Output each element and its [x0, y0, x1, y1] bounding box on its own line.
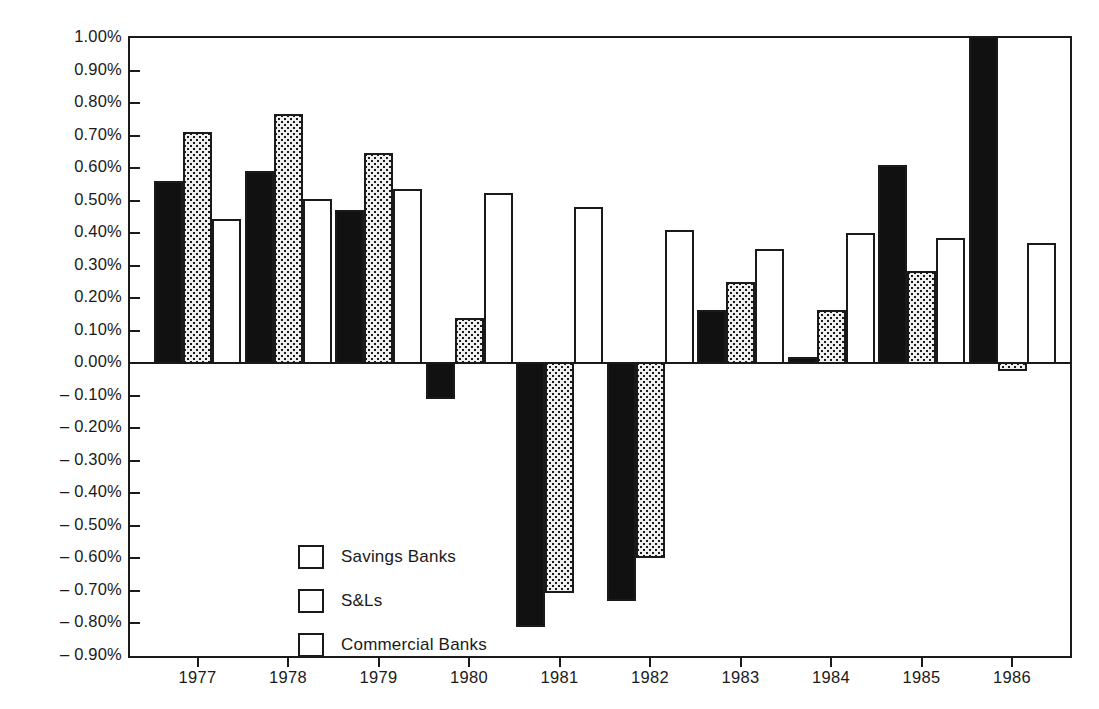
y-axis-tick-label: – 0.70% [0, 579, 122, 598]
y-axis-tick-mark [129, 297, 140, 299]
bar-1977-commercial-banks [212, 219, 241, 365]
x-axis-tick-label: 1978 [269, 668, 307, 687]
bar-1983-commercial-banks [755, 249, 784, 364]
y-axis-tick-label: 0.90% [0, 59, 122, 78]
x-axis-tick-mark [287, 656, 289, 667]
legend: Savings BanksS&LsCommercial Banks [298, 535, 487, 667]
y-axis-tick-mark [129, 102, 140, 104]
bar-1984-savings-banks [788, 357, 817, 365]
y-axis-tick-mark [129, 265, 140, 267]
y-axis-tick-label: 0.30% [0, 254, 122, 273]
y-axis-tick-mark [129, 460, 140, 462]
bar-1985-s-ls [907, 271, 936, 365]
y-axis-tick-label: 0.70% [0, 124, 122, 143]
x-axis-tick-label: 1983 [722, 668, 760, 687]
y-axis-tick-mark [129, 232, 140, 234]
x-axis-tick-mark [921, 656, 923, 667]
legend-item: S&Ls [298, 579, 487, 623]
legend-item: Commercial Banks [298, 623, 487, 667]
x-axis-tick-mark [1011, 656, 1013, 667]
bar-1982-s-ls [636, 362, 665, 558]
bar-1980-savings-banks [426, 362, 455, 399]
bar-1981-savings-banks [516, 362, 545, 626]
y-axis-tick-mark [129, 590, 140, 592]
y-axis-tick-label: – 0.90% [0, 645, 122, 664]
legend-item-label: S&Ls [341, 591, 382, 611]
y-axis-tick-label: 0.10% [0, 319, 122, 338]
plot-area: Savings BanksS&LsCommercial Banks [128, 36, 1072, 658]
x-axis-tick-label: 1984 [812, 668, 850, 687]
x-axis-tick-label: 1979 [360, 668, 398, 687]
y-axis-tick-mark [129, 492, 140, 494]
x-axis-tick-mark [197, 656, 199, 667]
bar-1986-commercial-banks [1027, 243, 1056, 364]
x-axis-tick-label: 1977 [179, 668, 217, 687]
x-axis-tick-label: 1980 [450, 668, 488, 687]
bar-1981-s-ls [545, 362, 574, 592]
bar-1983-s-ls [726, 282, 755, 364]
bar-1983-savings-banks [697, 310, 726, 365]
bar-1984-s-ls [817, 310, 846, 365]
y-axis-tick-label: – 0.40% [0, 482, 122, 501]
y-axis-tick-label: 0.40% [0, 222, 122, 241]
x-axis-tick-mark [559, 656, 561, 667]
bar-1979-s-ls [364, 153, 393, 364]
y-axis-tick-mark [129, 362, 140, 364]
y-axis-tick-mark [129, 167, 140, 169]
x-axis-tick-label: 1981 [541, 668, 579, 687]
legend-item-label: Commercial Banks [341, 635, 487, 655]
y-axis-tick-label: 0.20% [0, 287, 122, 306]
y-axis-tick-label: 0.60% [0, 157, 122, 176]
legend-swatch-dotted-gray [298, 589, 324, 613]
bar-1982-commercial-banks [665, 230, 694, 364]
x-axis-tick-mark [649, 656, 651, 667]
bar-1986-savings-banks [969, 38, 998, 364]
bar-1980-commercial-banks [484, 193, 513, 365]
y-axis-tick-mark [129, 525, 140, 527]
y-axis-tick-mark [129, 330, 140, 332]
legend-item: Savings Banks [298, 535, 487, 579]
bar-1980-s-ls [455, 318, 484, 365]
y-axis-tick-mark [129, 70, 140, 72]
legend-item-label: Savings Banks [341, 547, 456, 567]
y-axis-tick-label: – 0.10% [0, 384, 122, 403]
y-axis-tick-mark [129, 135, 140, 137]
y-axis-tick-mark [129, 427, 140, 429]
bar-1979-savings-banks [335, 210, 364, 364]
bar-1977-s-ls [183, 132, 212, 364]
y-axis-tick-label: 1.00% [0, 27, 122, 46]
x-axis-tick-label: 1985 [903, 668, 941, 687]
y-axis-tick-label: – 0.60% [0, 547, 122, 566]
bar-1977-savings-banks [154, 181, 183, 364]
bar-1978-s-ls [274, 114, 303, 364]
y-axis-tick-label: 0.80% [0, 92, 122, 111]
legend-swatch-white-outline [298, 633, 324, 657]
bar-1984-commercial-banks [846, 233, 875, 364]
y-axis-tick-label: – 0.30% [0, 449, 122, 468]
bar-1979-commercial-banks [393, 189, 422, 364]
y-axis-tick-label: – 0.50% [0, 514, 122, 533]
y-axis-tick-mark [129, 622, 140, 624]
bar-1978-commercial-banks [303, 199, 332, 364]
plot-inner: Savings BanksS&LsCommercial Banks [130, 38, 1070, 656]
bar-1985-commercial-banks [936, 238, 965, 364]
y-axis-tick-mark [129, 200, 140, 202]
bar-1981-commercial-banks [574, 207, 603, 364]
legend-swatch-solid-black [298, 545, 324, 569]
x-axis-tick-label: 1986 [993, 668, 1031, 687]
x-axis-tick-mark [830, 656, 832, 667]
bar-1985-savings-banks [878, 165, 907, 364]
bar-1978-savings-banks [245, 171, 274, 364]
bar-chart: 1.00%0.90%0.80%0.70%0.60%0.50%0.40%0.30%… [0, 0, 1099, 709]
bar-1986-s-ls [998, 362, 1027, 371]
y-axis-tick-mark [129, 395, 140, 397]
x-axis-tick-label: 1982 [631, 668, 669, 687]
y-axis-tick-label: – 0.20% [0, 417, 122, 436]
bar-1982-savings-banks [607, 362, 636, 600]
y-axis-tick-label: – 0.80% [0, 612, 122, 631]
y-axis-tick-label: 0.00% [0, 352, 122, 371]
x-axis-tick-mark [740, 656, 742, 667]
y-axis-tick-label: 0.50% [0, 189, 122, 208]
y-axis-tick-mark [129, 557, 140, 559]
